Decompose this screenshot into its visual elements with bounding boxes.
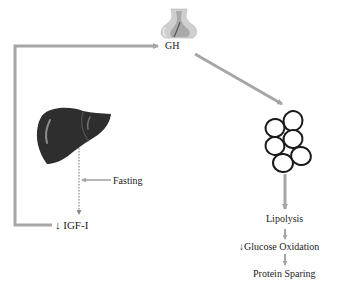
protein-sparing-label: Protein Sparing: [253, 269, 316, 279]
igf-label: ↓ IGF-I: [55, 220, 88, 231]
glucose-oxidation-label: ↓Glucose Oxidation: [239, 242, 319, 252]
pituitary-gland-icon: [161, 9, 196, 38]
gh-label: GH: [165, 41, 179, 51]
lipolysis-label: Lipolysis: [266, 214, 303, 224]
gh-to-adipose-arrow: [195, 54, 282, 104]
liver-icon: [37, 108, 111, 164]
fat-cells-icon: [263, 108, 312, 172]
fasting-label: Fasting: [113, 176, 142, 186]
